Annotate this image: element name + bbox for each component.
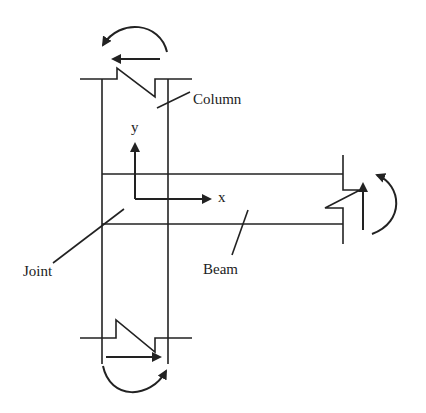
column-label: Column [193, 92, 241, 107]
y-axis-label: y [131, 120, 139, 135]
x-axis-label: x [218, 190, 226, 205]
column-leader [157, 92, 190, 108]
beam-moment-arrow [372, 175, 396, 234]
joint-label: Joint [23, 264, 52, 279]
beam-label: Beam [203, 262, 238, 277]
beam-end-cut [325, 155, 360, 244]
joint-diagram [0, 0, 426, 413]
joint-leader [53, 209, 124, 263]
column-bottom-cut [80, 320, 192, 352]
column-top-cut [80, 68, 192, 97]
bottom-moment-arrow [103, 366, 166, 392]
top-moment-arrow [103, 27, 167, 52]
beam-leader [232, 210, 248, 255]
